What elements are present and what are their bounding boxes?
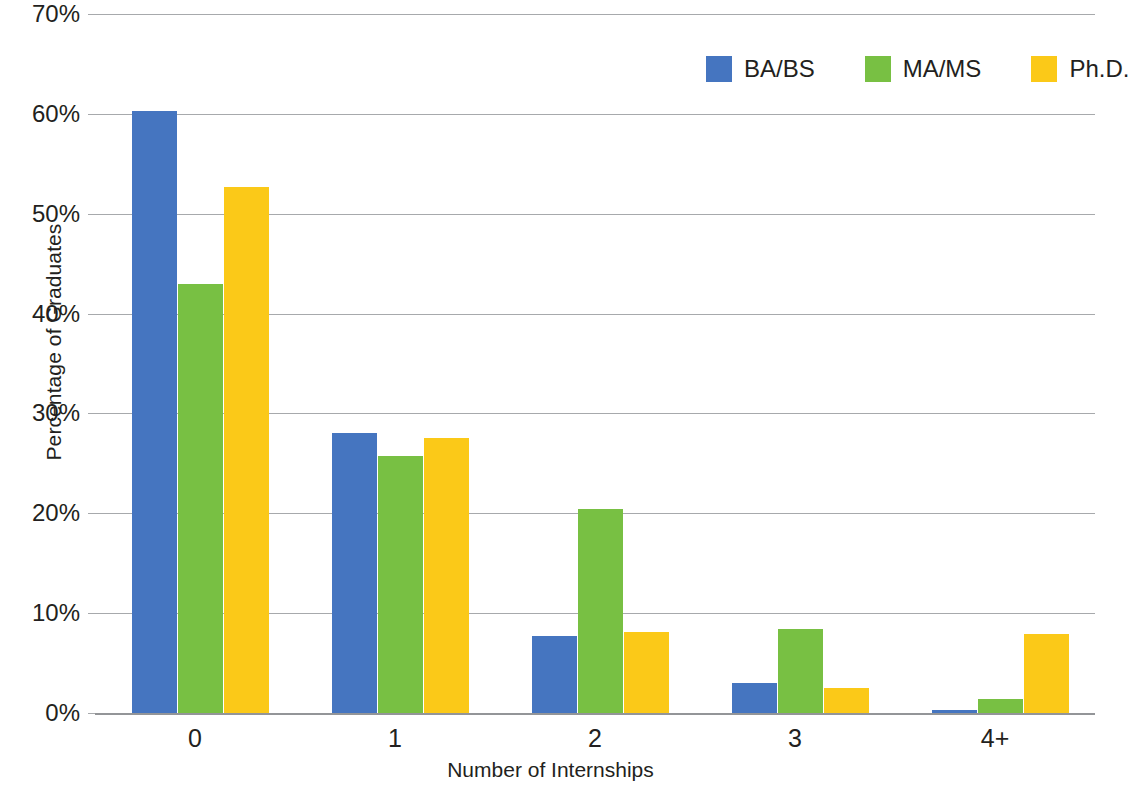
legend-swatch-icon [706, 56, 732, 82]
bar [578, 509, 623, 713]
plot-area [95, 14, 1095, 713]
y-axis-tick-label: 20% [0, 501, 80, 525]
legend-label: MA/MS [903, 57, 982, 81]
y-axis-title: Percentage of Graduates [42, 192, 66, 492]
x-axis-tick-label: 3 [735, 726, 855, 751]
legend-label: Ph.D. [1069, 57, 1129, 81]
y-axis-tick-label: 0% [0, 701, 80, 725]
legend-swatch-icon [1031, 56, 1057, 82]
x-axis-tick-label: 0 [135, 726, 255, 751]
x-axis-title: Number of Internships [0, 758, 1101, 782]
bar [532, 636, 577, 713]
bar [624, 632, 669, 713]
legend: BA/BSMA/MSPh.D. [706, 56, 1129, 82]
legend-item: MA/MS [865, 56, 982, 82]
bar [932, 710, 977, 713]
bar [732, 683, 777, 713]
y-axis-tick-label: 40% [0, 302, 80, 326]
bar [778, 629, 823, 713]
bar [424, 438, 469, 713]
y-axis-tick-label: 30% [0, 401, 80, 425]
bar [332, 433, 377, 713]
x-axis-tick-label: 2 [535, 726, 655, 751]
x-axis-tick-label: 4+ [935, 726, 1055, 751]
y-axis-tick-label: 50% [0, 202, 80, 226]
legend-item: BA/BS [706, 56, 815, 82]
bar-group [295, 14, 495, 713]
bar [1024, 634, 1069, 713]
bar [378, 456, 423, 713]
x-axis-tick-label: 1 [335, 726, 455, 751]
bar [978, 699, 1023, 713]
bar [132, 111, 177, 713]
y-axis-tick-label: 10% [0, 601, 80, 625]
axis-baseline [95, 713, 1095, 715]
legend-label: BA/BS [744, 57, 815, 81]
y-axis-tick-label: 60% [0, 102, 80, 126]
bar-group [95, 14, 295, 713]
bar [824, 688, 869, 713]
bar [178, 284, 223, 713]
bar-group [695, 14, 895, 713]
bar-group [895, 14, 1095, 713]
legend-item: Ph.D. [1031, 56, 1129, 82]
legend-swatch-icon [865, 56, 891, 82]
y-axis-tick-label: 70% [0, 2, 80, 26]
bar [224, 187, 269, 713]
bar-group [495, 14, 695, 713]
